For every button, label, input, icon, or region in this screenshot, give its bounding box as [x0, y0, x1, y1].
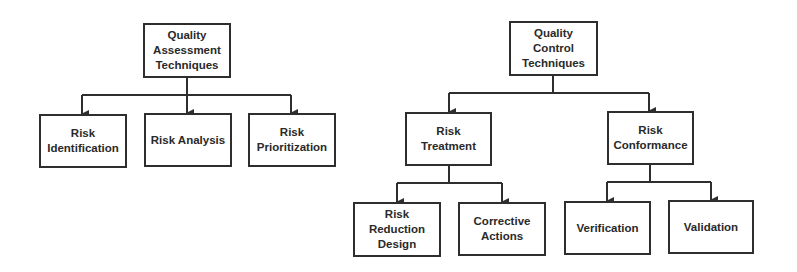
node-risk-treatment: Risk Treatment [405, 112, 492, 166]
node-corrective-actions: Corrective Actions [458, 202, 546, 256]
node-risk-prioritization: Risk Prioritization [248, 113, 336, 167]
node-validation: Validation [668, 200, 754, 254]
node-risk-conformance: Risk Conformance [607, 111, 694, 165]
node-risk-analysis: Risk Analysis [144, 113, 232, 167]
node-risk-identification: Risk Identification [39, 114, 127, 168]
node-verification: Verification [564, 201, 651, 255]
node-risk-reduction-design: Risk Reduction Design [353, 202, 441, 257]
node-quality-control-techniques: Quality Control Techniques [509, 21, 598, 76]
diagram-canvas: Quality Assessment Techniques Risk Ident… [0, 0, 797, 272]
node-quality-assessment-techniques: Quality Assessment Techniques [143, 23, 231, 78]
